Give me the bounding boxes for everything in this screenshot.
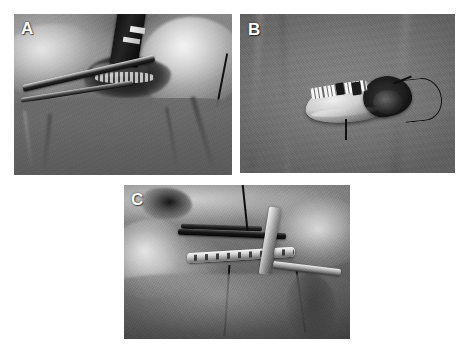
panel-c-film-grain (124, 185, 350, 339)
panel-b-film-grain (240, 14, 455, 173)
panel-a: A (14, 14, 232, 175)
panel-c: C (124, 185, 350, 339)
panel-c-photograph (124, 185, 350, 339)
panel-a-film-grain (14, 14, 232, 175)
panel-label-a: A (21, 20, 34, 37)
panel-label-b: B (248, 21, 261, 38)
figure-container: A B (0, 0, 467, 348)
panel-label-c: C (131, 191, 144, 208)
panel-b-photograph (240, 14, 455, 173)
panel-b: B (240, 14, 455, 173)
panel-a-photograph (14, 14, 232, 175)
